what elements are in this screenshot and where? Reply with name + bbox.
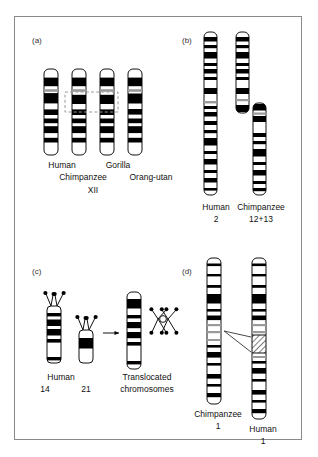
panel-d-label-human-name: Human [232,424,294,434]
panel-a-chromosome-human [44,69,58,155]
panel-d-chromosome-human-1 [252,258,266,419]
panel-a-chromosome-orangutan [128,69,142,155]
panel-b-chromosome-chimpanzee-13 [253,103,266,195]
panel-c-chromosome-human-21 [75,315,97,363]
panel-c-satellite-remnant-chromosome [149,307,178,335]
panel-c-label-chromosomes: chromosomes [104,384,190,394]
panel-a-label-orangutan: Orang-utan [114,172,188,182]
panel-d-leader-lines [224,331,251,352]
panel-d-label-human-number: 1 [232,436,294,446]
panel-b-chromosome-human-2 [204,32,217,195]
human-1-hatched-insert [252,335,266,353]
panel-b-chromosome-chimpanzee-12 [236,32,249,113]
panel-c-label-translocated: Translocated [108,372,186,382]
panel-d-label-chimpanzee-name: Chimpanzee [178,409,258,419]
panel-b-label-chimpanzee-number: 12+13 [221,214,301,224]
panel-c-label-21: 21 [73,384,99,394]
figure-root: (a) (b) (c) (d) [0,0,318,457]
panel-c-label-14: 14 [32,384,58,394]
panel-c-chromosome-translocated [127,292,141,369]
panel-d-chromosome-chimpanzee-1 [207,258,221,404]
panel-a-label-gorilla: Gorilla [90,160,146,170]
panel-c-label-human: Human [32,372,90,382]
panel-c-arrow-icon [103,331,119,335]
panel-c-chromosome-human-14 [43,291,65,363]
panel-a-label-human: Human [34,160,90,170]
panel-a-group-label: XII [63,185,123,195]
panel-b-label-chimpanzee-name: Chimpanzee [221,202,301,212]
panel-a-label-chimpanzee: Chimpanzee [48,172,118,182]
